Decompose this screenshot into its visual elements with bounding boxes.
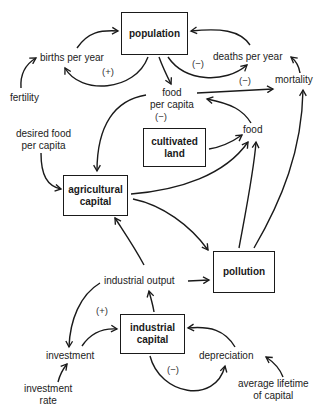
- avg-lifetime-line-2: of capital: [238, 390, 309, 402]
- link-indout-to-pollution: [188, 280, 209, 281]
- investment-rate: investment rate: [24, 383, 72, 407]
- births-per-year: births per year: [40, 52, 104, 64]
- link-deaths-to-population: [191, 30, 250, 45]
- mortality: mortality: [275, 74, 313, 86]
- link-cultland-to-food: [209, 135, 242, 149]
- link-depreciation-to-indcap: [188, 328, 235, 347]
- link-mortality-to-deaths: [291, 57, 300, 73]
- population-label: population: [129, 28, 180, 40]
- sign-births-loop: (+): [102, 66, 114, 77]
- stock-population: population: [121, 12, 188, 55]
- sign-foodpc-loop: (−): [155, 111, 167, 122]
- sign-depreciation-loop: (−): [167, 364, 179, 375]
- food: food: [243, 124, 262, 136]
- link-indout-to-agcap: [115, 218, 144, 265]
- food-per-capita-line-1: food: [150, 87, 194, 99]
- stock-industrial-capital: industrial capital: [120, 314, 185, 354]
- link-investment-to-indcap: [82, 329, 117, 346]
- link-foodpc-to-mortality: [197, 89, 273, 93]
- link-agcap-to-pollution: [133, 199, 208, 250]
- fertility: fertility: [10, 92, 39, 104]
- stock-agricultural-capital: agricultural capital: [63, 175, 128, 216]
- desired-food-per-capita: desired food per capita: [16, 128, 71, 152]
- food-per-capita-line-2: per capita: [150, 99, 194, 111]
- cultivated-land-label-1: cultivated: [151, 136, 198, 148]
- stock-pollution: pollution: [213, 251, 275, 293]
- agricultural-capital-label-2: capital: [80, 196, 112, 208]
- deaths-per-year: deaths per year: [213, 51, 283, 63]
- pollution-label: pollution: [223, 266, 265, 278]
- stock-cultivated-land: cultivated land: [143, 128, 206, 167]
- investment-rate-line-2: rate: [24, 395, 72, 407]
- cultivated-land-label-2: land: [164, 148, 185, 160]
- link-pollution-to-food: [239, 142, 256, 248]
- industrial-capital-label-1: industrial: [130, 322, 175, 334]
- desired-food-line-2: per capita: [16, 140, 71, 152]
- sign-deaths-loop: (−): [192, 58, 204, 69]
- link-pollution-to-mortality: [254, 90, 303, 248]
- link-births-to-population: [77, 31, 118, 48]
- link-fertility-to-births: [21, 58, 36, 88]
- investment: investment: [46, 350, 94, 362]
- agricultural-capital-label-1: agricultural: [68, 184, 122, 196]
- link-lifetime-to-depreciation: [266, 357, 283, 377]
- sign-mortality-link: (−): [239, 75, 251, 86]
- link-invrate-to-investment: [58, 364, 67, 382]
- food-per-capita: food per capita: [150, 87, 194, 111]
- industrial-capital-label-2: capital: [137, 334, 169, 346]
- link-population-to-foodpc: [159, 57, 171, 84]
- avg-lifetime-line-1: average lifetime: [238, 378, 309, 390]
- sign-investment-loop: (+): [96, 305, 108, 316]
- average-lifetime-of-capital: average lifetime of capital: [238, 378, 309, 402]
- industrial-output: industrial output: [104, 275, 175, 287]
- link-foodpc-to-agcap: [97, 95, 146, 171]
- link-food-to-foodpc: [207, 99, 251, 123]
- link-desired-to-agcap: [41, 153, 61, 189]
- desired-food-line-1: desired food: [16, 128, 71, 140]
- link-indcap-to-indout: [149, 291, 154, 312]
- investment-rate-line-1: investment: [24, 383, 72, 395]
- depreciation: depreciation: [199, 350, 253, 362]
